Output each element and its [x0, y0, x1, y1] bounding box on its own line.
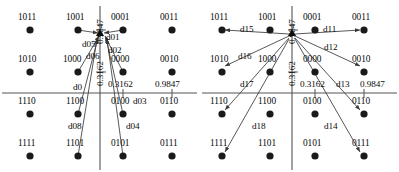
vector-d15	[225, 30, 289, 34]
figure-canvas: 1011 1001 0001 0011 1010 1000 0000 0010 …	[0, 0, 399, 172]
point-dot	[119, 152, 126, 159]
point-label-1101: 1101	[258, 139, 276, 148]
point-dot	[360, 152, 367, 159]
point-label-1100: 1100	[258, 97, 276, 106]
point-dot	[311, 110, 318, 117]
point-dot	[168, 68, 175, 75]
point-label-0011: 0011	[160, 13, 178, 22]
point-label-0110: 0110	[352, 97, 370, 106]
y-tick-label-0847: 0.9847	[288, 19, 297, 44]
point-label-1010: 1010	[210, 55, 228, 64]
point-label-1001: 1001	[258, 13, 276, 22]
vector-label-d16: d16	[238, 52, 251, 61]
point-label-0000: 0000	[111, 55, 129, 64]
vector-label-d03: d03	[133, 97, 146, 106]
vector-label-d13: d13	[336, 80, 349, 89]
point-label-0110: 0110	[160, 97, 178, 106]
vector-label-d05: d05	[82, 40, 95, 49]
point-dot	[266, 26, 273, 33]
point-label-0000: 0000	[303, 55, 321, 64]
vector-label-d17: d17	[240, 80, 253, 89]
point-label-0100: 0100	[111, 97, 129, 106]
point-dot	[360, 110, 367, 117]
point-dot	[168, 110, 175, 117]
vector-label-d18: d18	[252, 122, 265, 131]
point-label-0100: 0100	[303, 97, 321, 106]
vector-d18	[225, 39, 289, 152]
point-label-1011: 1011	[18, 13, 36, 22]
point-dot	[74, 68, 81, 75]
vector-label-d14: d14	[324, 122, 337, 131]
vector-label-d12: d12	[324, 43, 337, 52]
y-tick-label-0316: 0.3162	[288, 61, 297, 86]
point-dot	[74, 152, 81, 159]
panel-left: 1011 1001 0001 0011 1010 1000 0000 0010 …	[0, 0, 199, 172]
vector-label-d0: d0	[73, 83, 82, 92]
point-label-1110: 1110	[210, 97, 228, 106]
point-dot	[311, 152, 318, 159]
vector-label-d04: d04	[126, 122, 139, 131]
point-dot	[218, 152, 225, 159]
point-label-1010: 1010	[18, 55, 36, 64]
x-tick-label-0316: 0.3162	[300, 80, 325, 89]
vector-label-d11: d11	[323, 25, 336, 34]
vector-label-d08: d08	[68, 122, 81, 131]
point-label-1000: 1000	[258, 55, 276, 64]
point-dot	[26, 152, 33, 159]
x-tick-label-0847: 0.9847	[360, 80, 385, 89]
point-label-1100: 1100	[66, 97, 84, 106]
y-tick-label-0316: 0.3162	[96, 61, 105, 86]
point-dot	[311, 68, 318, 75]
point-dot	[218, 68, 225, 75]
point-dot	[266, 68, 273, 75]
point-label-1111: 1111	[210, 139, 227, 148]
point-dot	[168, 26, 175, 33]
point-label-0101: 0101	[303, 139, 321, 148]
point-label-0011: 0011	[352, 13, 370, 22]
point-label-1001: 1001	[66, 13, 84, 22]
vector-label-d15: d15	[240, 25, 253, 34]
vector-label-d02: d02	[108, 46, 121, 55]
point-dot	[266, 110, 273, 117]
point-label-1101: 1101	[66, 139, 84, 148]
point-dot	[168, 152, 175, 159]
point-dot	[218, 110, 225, 117]
vector-label-d06: d06	[86, 52, 99, 61]
point-dot	[26, 26, 33, 33]
point-dot	[26, 110, 33, 117]
point-label-1000: 1000	[63, 55, 81, 64]
point-label-0001: 0001	[111, 13, 129, 22]
point-label-1011: 1011	[210, 13, 228, 22]
vector-d16	[225, 36, 289, 66]
point-dot	[266, 152, 273, 159]
point-label-0101: 0101	[111, 139, 129, 148]
point-dot	[360, 26, 367, 33]
point-dot	[360, 68, 367, 75]
point-dot	[119, 68, 126, 75]
point-dot	[119, 26, 126, 33]
point-label-1110: 1110	[18, 97, 36, 106]
point-label-0010: 0010	[352, 55, 370, 64]
point-label-0111: 0111	[160, 139, 178, 148]
point-dot	[26, 68, 33, 75]
vector-d17	[225, 38, 289, 110]
point-dot	[218, 26, 225, 33]
x-tick-label-0847: 0.9847	[155, 80, 180, 89]
point-dot	[74, 110, 81, 117]
point-label-0111: 0111	[352, 139, 370, 148]
panel-right: 1011 1001 0001 0011 1010 1000 0000 0010 …	[200, 0, 399, 172]
x-tick-label-0316: 0.3162	[108, 80, 133, 89]
point-dot	[311, 26, 318, 33]
vector-label-d01: d01	[106, 33, 119, 42]
point-dot	[74, 26, 81, 33]
point-label-1111: 1111	[18, 139, 35, 148]
point-label-0001: 0001	[303, 13, 321, 22]
point-dot	[119, 110, 126, 117]
y-tick-label-0847: 0.9847	[96, 19, 105, 44]
point-label-0010: 0010	[160, 55, 178, 64]
